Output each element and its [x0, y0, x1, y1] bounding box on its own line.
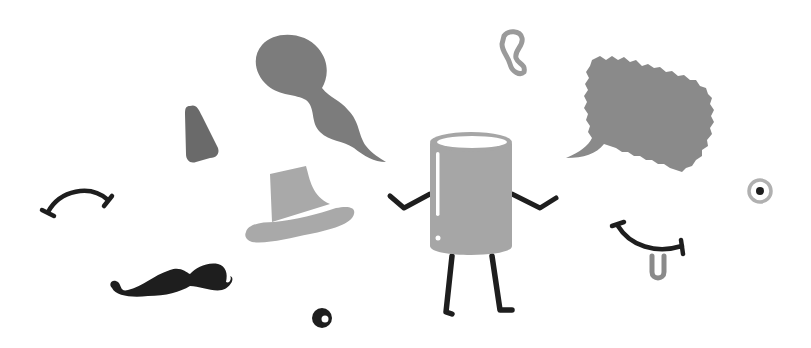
speech-bubble-icon: [566, 56, 714, 172]
illustration-canvas: [0, 0, 811, 348]
cup-character-legs-icon: [446, 256, 512, 314]
cup-character-icon: [430, 132, 512, 255]
eyebrow-icon: [42, 191, 112, 216]
mustache-icon: [110, 264, 232, 297]
ghost-smoke-icon: [256, 35, 386, 162]
smile-tongue-icon: [612, 222, 683, 278]
illustration-scene: [0, 0, 811, 348]
small-eye-icon: [312, 308, 332, 328]
nose-icon: [185, 105, 219, 162]
hat-icon: [245, 166, 354, 242]
target-eye-icon: [749, 180, 771, 202]
ear-icon: [502, 32, 524, 74]
